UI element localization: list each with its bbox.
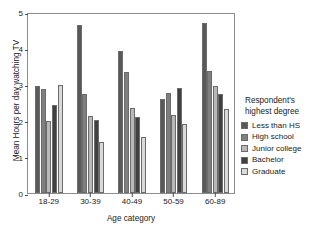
y-axis-tick-mark [25, 158, 28, 159]
x-axis-tick: 18-29 [39, 193, 59, 206]
bar [94, 120, 99, 193]
bar [160, 99, 165, 193]
legend-item[interactable]: Graduate [241, 166, 318, 178]
legend-item-label: Graduate [252, 168, 285, 176]
legend-swatch-icon [241, 134, 248, 141]
legend-item-label: Junior college [252, 145, 301, 153]
legend-swatch-icon [241, 145, 248, 152]
bar [135, 117, 140, 193]
x-axis-tick: 60-89 [205, 193, 225, 206]
bar [124, 72, 129, 193]
y-axis-tick-mark [25, 14, 28, 15]
legend-title: Respondent's highest degree [245, 96, 318, 117]
chart-figure: Mean Hours per day watching TV 012345 18… [0, 0, 318, 235]
bar [177, 88, 182, 193]
bar [130, 108, 135, 193]
bar [224, 109, 229, 193]
x-axis-tick: 30-39 [80, 193, 100, 206]
legend-swatch-icon [241, 122, 248, 129]
bar [46, 121, 51, 193]
legend-swatch-icon [241, 157, 248, 164]
legend-items: Less than HSHigh schoolJunior collegeBac… [241, 120, 318, 178]
bar [218, 94, 223, 193]
bar [35, 86, 40, 193]
legend-item[interactable]: Bachelor [241, 155, 318, 167]
legend-title-line-2: highest degree [245, 107, 318, 118]
y-axis-tick-mark [25, 122, 28, 123]
bar [41, 89, 46, 193]
bar [207, 71, 212, 193]
x-axis-tick-label: 40-49 [122, 198, 142, 206]
bar [58, 85, 63, 193]
x-axis-tick-label: 18-29 [39, 198, 59, 206]
bar [88, 116, 93, 193]
legend-title-line-1: Respondent's [245, 96, 318, 107]
bar [118, 51, 123, 193]
y-axis-title: Mean Hours per day watching TV [12, 11, 21, 191]
legend-item-label: Less than HS [252, 122, 300, 130]
x-axis-tick-label: 30-39 [80, 198, 100, 206]
bar [213, 86, 218, 193]
y-axis-tick: 5 [19, 10, 28, 18]
legend-item[interactable]: Junior college [241, 143, 318, 155]
y-axis-tick: 0 [19, 191, 28, 199]
bar [182, 124, 187, 193]
y-axis-tick: 4 [19, 46, 28, 54]
bar [202, 23, 207, 193]
legend-item[interactable]: Less than HS [241, 120, 318, 132]
y-axis-tick-mark [25, 86, 28, 87]
bar [171, 115, 176, 193]
x-axis-tick: 40-49 [122, 193, 142, 206]
y-axis-tick: 3 [19, 82, 28, 90]
legend-swatch-icon [241, 168, 248, 175]
y-axis-tick-mark [25, 50, 28, 51]
bar [141, 137, 146, 193]
x-axis-tick: 50-59 [163, 193, 183, 206]
bar [166, 93, 171, 193]
bar [52, 105, 57, 193]
legend-item[interactable]: High school [241, 132, 318, 144]
y-axis-tick: 2 [19, 119, 28, 127]
plot-area: 012345 18-2930-3940-4950-5960-89 [27, 13, 235, 194]
bar [99, 142, 104, 193]
x-axis-tick-label: 60-89 [205, 198, 225, 206]
x-axis-tick-label: 50-59 [163, 198, 183, 206]
y-axis-tick: 1 [19, 155, 28, 163]
legend-item-label: Bachelor [252, 156, 284, 164]
legend: Respondent's highest degree Less than HS… [241, 96, 318, 178]
x-axis-title: Age category [27, 214, 235, 223]
bar [82, 94, 87, 193]
bar [77, 25, 82, 193]
y-axis-tick-mark [25, 195, 28, 196]
legend-item-label: High school [252, 133, 294, 141]
